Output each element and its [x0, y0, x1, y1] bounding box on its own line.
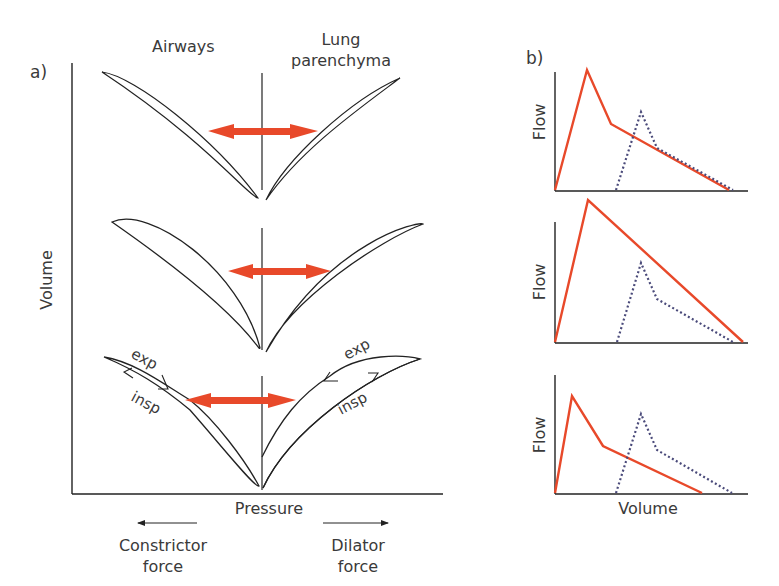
parenchyma-loop: [266, 78, 400, 200]
solid-curve: [555, 200, 743, 342]
double-arrow-icon: [228, 264, 331, 279]
panel-a: a) Airways Lung parenchyma Volume Pressu…: [30, 30, 443, 576]
double-arrow-icon: [185, 393, 296, 408]
airways-loop: [104, 357, 259, 486]
flow-volume-chart-top: Flow: [530, 70, 748, 191]
insp-label: insp: [334, 388, 370, 418]
parenchyma-label-line1: Lung: [321, 30, 360, 49]
panel-a-label: a): [30, 62, 47, 82]
parenchyma-label-line2: parenchyma: [291, 51, 391, 70]
row-top: [102, 72, 400, 200]
insp-label: insp: [128, 388, 164, 418]
flow-axis-label: Flow: [530, 417, 549, 454]
dilator-label-line1: Dilator: [331, 536, 385, 555]
volume-axis-label: Volume: [37, 250, 56, 310]
row-bottom: exp insp exp insp: [104, 335, 420, 490]
flow-volume-chart-bottom: Flow Volume: [530, 375, 748, 518]
airways-label: Airways: [152, 37, 215, 56]
pressure-axis-label: Pressure: [235, 499, 303, 518]
insp-arrow-icon: [368, 373, 378, 382]
row-middle: [112, 219, 423, 352]
panel-b: b) Flow Flow Flow Volume: [526, 48, 748, 518]
airways-loop: [112, 219, 260, 348]
parenchyma-loop: [266, 224, 423, 352]
flow-axis-label: Flow: [530, 264, 549, 301]
flow-volume-chart-middle: Flow: [530, 200, 748, 343]
double-arrow-icon: [208, 124, 318, 139]
constrictor-label-line2: force: [143, 557, 183, 576]
solid-curve: [555, 70, 729, 190]
panel-b-label: b): [526, 48, 543, 68]
constrictor-label-line1: Constrictor: [119, 536, 208, 555]
solid-curve: [555, 396, 702, 493]
dotted-curve: [616, 112, 733, 190]
dotted-curve: [616, 414, 732, 493]
dilator-label-line2: force: [338, 557, 378, 576]
dotted-curve: [617, 263, 733, 342]
flow-axis-label: Flow: [530, 104, 549, 141]
parenchyma-loop: [262, 356, 420, 488]
exp-arrow-icon: [324, 372, 338, 381]
volume-axis-label: Volume: [618, 499, 678, 518]
